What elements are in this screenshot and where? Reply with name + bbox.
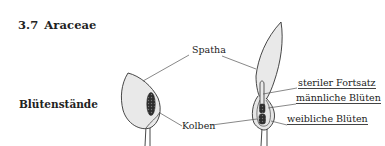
label-weibliche-blueten: weibliche Blüten [287,113,368,125]
left-inflorescence [121,73,160,146]
right-male-flowers [260,104,266,113]
label-kolben: Kolben [182,120,215,131]
left-spadix [147,93,155,116]
right-stem [261,128,267,146]
right-inflorescence [252,22,282,146]
label-maennliche-blueten: männliche Blüten [296,92,381,104]
label-steriler-fortsatz: steriler Fortsatz [298,77,376,89]
right-female-flowers [259,114,266,124]
right-sterile-appendix [260,81,264,105]
label-spatha: Spatha [192,44,226,55]
